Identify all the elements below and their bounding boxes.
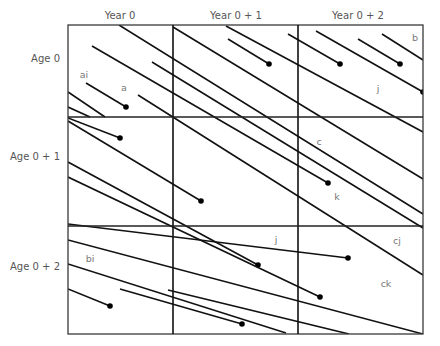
life-line <box>152 62 423 228</box>
death-point-icon <box>325 180 331 186</box>
region-label-j-lower: j <box>275 234 278 245</box>
region-label-ck: ck <box>381 278 392 289</box>
row-label-age-0-plus-2: Age 0 + 2 <box>10 261 60 272</box>
row-label-age-0-plus-1: Age 0 + 1 <box>10 151 60 162</box>
death-point-icon <box>337 61 343 67</box>
life-line <box>68 264 286 333</box>
death-point-icon <box>397 61 403 67</box>
column-label-year-0: Year 0 <box>105 10 136 21</box>
life-line <box>68 118 120 138</box>
death-point-icon <box>345 255 351 261</box>
region-label-bi: bi <box>86 253 95 264</box>
death-point-icon <box>198 198 204 204</box>
life-line <box>68 177 320 297</box>
life-line <box>119 25 423 214</box>
life-line <box>358 39 400 64</box>
region-label-c: c <box>316 136 321 147</box>
lexis-diagram: Year 0 Year 0 + 1 Year 0 + 2 Age 0 Age 0… <box>0 0 440 346</box>
region-label-ai: ai <box>80 69 88 80</box>
region-label-k: k <box>334 191 340 202</box>
row-label-age-0: Age 0 <box>31 53 60 64</box>
death-point-icon <box>239 321 245 327</box>
life-lines <box>68 25 426 334</box>
death-point-icon <box>123 104 129 110</box>
diagram-canvas <box>0 0 440 346</box>
life-line <box>86 83 126 107</box>
region-label-cj: cj <box>393 235 401 246</box>
life-line <box>68 121 201 201</box>
region-label-a: a <box>121 82 127 93</box>
life-line <box>92 46 328 183</box>
death-point-icon <box>107 303 113 309</box>
life-line <box>68 92 105 117</box>
life-line <box>138 95 423 275</box>
region-label-b: b <box>412 32 418 43</box>
life-line <box>120 289 242 324</box>
life-line <box>68 224 348 258</box>
death-point-icon <box>317 294 323 300</box>
life-line <box>288 34 340 64</box>
death-point-icon <box>266 61 272 67</box>
column-label-year-0-plus-1: Year 0 + 1 <box>210 10 262 21</box>
life-line <box>68 289 110 306</box>
life-line <box>228 39 269 64</box>
life-line <box>68 107 90 117</box>
region-label-j-upper: j <box>377 83 380 94</box>
death-point-icon <box>117 135 123 141</box>
column-label-year-0-plus-2: Year 0 + 2 <box>332 10 384 21</box>
